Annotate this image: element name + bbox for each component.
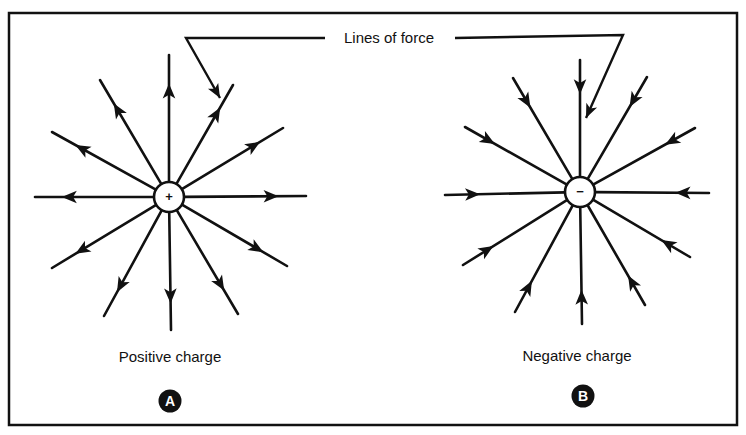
arrowhead-outward-icon	[75, 241, 91, 254]
negative-charge-field: −	[445, 60, 709, 324]
panel-a-badge: A	[159, 390, 182, 413]
field-line	[593, 200, 690, 257]
field-line	[513, 78, 572, 179]
field-line	[177, 210, 238, 314]
field-line	[104, 210, 162, 316]
electric-field-diagram: + − Lines of force Positive charge Negat…	[0, 0, 746, 435]
field-line	[595, 192, 709, 193]
field-line	[580, 207, 582, 324]
field-line	[169, 212, 171, 330]
positive-charge-caption: Positive charge	[119, 348, 222, 365]
field-line	[515, 205, 573, 312]
arrowhead-inward-icon	[517, 92, 530, 108]
arrowhead-outward-icon	[114, 103, 127, 119]
arrowhead-inward-icon	[661, 240, 677, 253]
arrowhead-outward-icon	[211, 274, 224, 290]
pointer-line-right	[455, 35, 623, 118]
pointer-line-left	[186, 38, 325, 98]
field-line	[52, 132, 156, 190]
field-line	[52, 205, 156, 268]
positive-charge-field: +	[35, 55, 306, 330]
lines-of-force-pointers	[186, 35, 623, 118]
lines-of-force-label: Lines of force	[340, 29, 438, 46]
field-line	[100, 80, 161, 184]
plus-sign-icon: +	[165, 189, 173, 204]
field-line	[587, 205, 645, 305]
negative-charge-caption: Negative charge	[522, 347, 631, 364]
field-line	[593, 128, 695, 185]
field-line	[182, 128, 283, 189]
field-line	[463, 200, 567, 265]
panel-b-badge: B	[572, 385, 595, 408]
field-line	[465, 127, 567, 185]
arrowhead-outward-icon	[244, 142, 260, 155]
minus-sign-icon: −	[576, 184, 584, 199]
arrowhead-outward-icon	[247, 239, 263, 252]
field-line	[445, 192, 565, 195]
diagram-canvas: + −	[0, 0, 746, 435]
field-line	[184, 196, 306, 197]
field-line	[176, 85, 233, 184]
field-line	[182, 205, 287, 266]
arrowhead-inward-icon	[477, 246, 493, 259]
